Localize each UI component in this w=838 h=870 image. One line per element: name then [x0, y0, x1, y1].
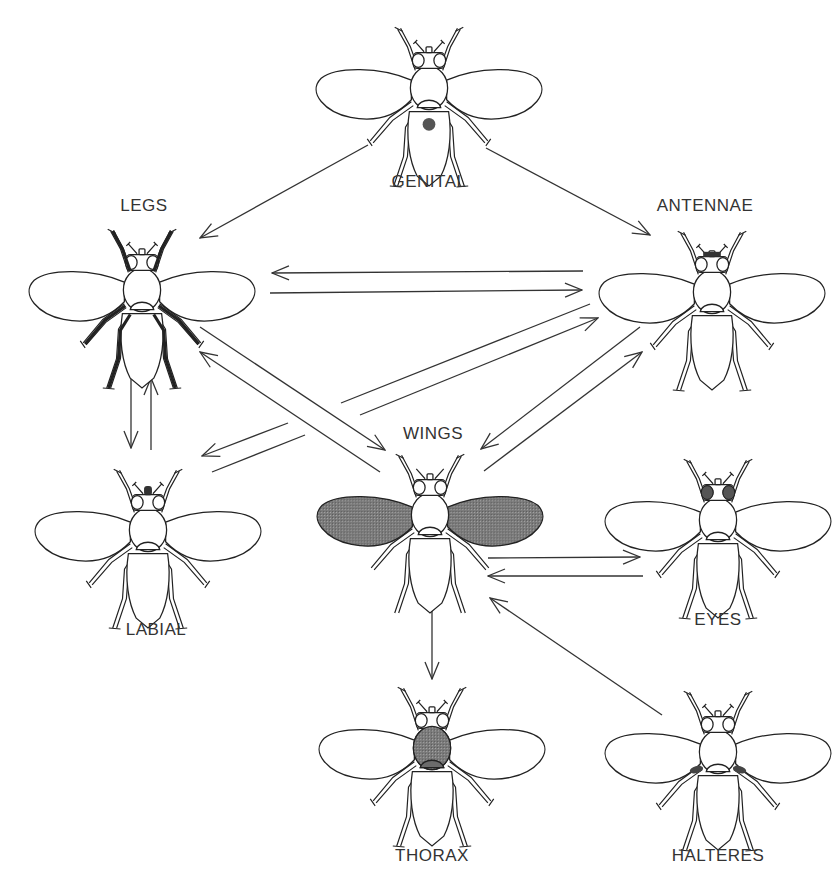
fly-wings [317, 454, 543, 613]
arrows [131, 145, 662, 715]
arrow-antennae-to-labial [202, 423, 288, 456]
arrow-wings-to-legs [200, 352, 380, 472]
fly-genital [316, 27, 542, 187]
arrow-halteres-to-wings [490, 598, 662, 715]
proboscis-highlight [144, 486, 152, 495]
arrow-labial-to-antennae-1 [212, 435, 305, 472]
label-labial: LABIAL [126, 620, 187, 640]
arrow-wings-to-eyes [488, 557, 640, 558]
arrow-legs-to-antennae [270, 290, 582, 293]
arrow-antennae-to-legs [272, 271, 583, 273]
fly-labial [35, 469, 261, 629]
arrow-labial-to-antennae [360, 318, 598, 415]
arrow-genital-to-antennae [486, 148, 650, 235]
label-thorax: THORAX [395, 846, 469, 866]
label-eyes: EYES [694, 610, 741, 630]
arrow-legs-to-wings [200, 327, 385, 450]
antennae-highlight [703, 252, 721, 257]
label-genital: GENITAL [392, 172, 467, 192]
label-antennae: ANTENNAE [657, 196, 754, 216]
fly-antennae [599, 231, 825, 391]
arrow-genital-to-legs [200, 145, 368, 238]
eye-left-highlight [701, 486, 713, 500]
fly-halteres [605, 691, 831, 851]
label-legs: LEGS [120, 196, 167, 216]
label-wings: WINGS [403, 424, 463, 444]
fly-eyes [605, 459, 831, 619]
eye-right-highlight [723, 486, 735, 500]
arrow-wings-to-antennae [484, 352, 642, 471]
fly-thorax [319, 687, 545, 847]
arrow-labial-to-antennae-2 [341, 304, 590, 403]
arrow-antennae-to-wings [481, 327, 640, 449]
label-halteres: HALTERES [672, 846, 765, 866]
genital-dot-highlight [423, 118, 436, 131]
fly-legs [29, 229, 255, 389]
